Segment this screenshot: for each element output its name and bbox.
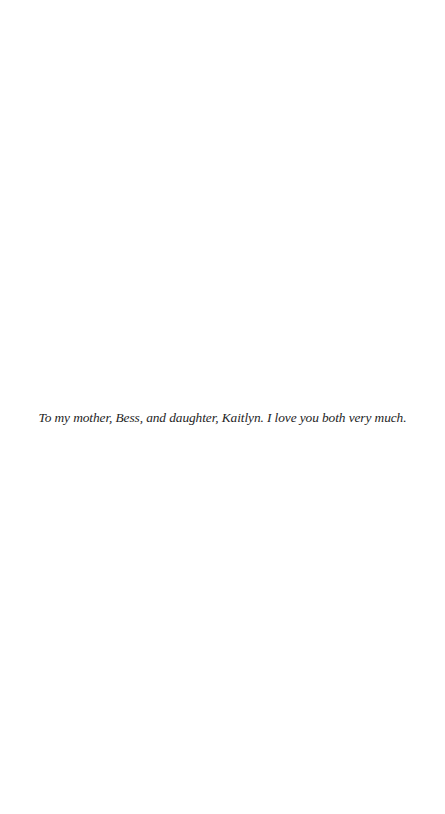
- dedication-text: To my mother, Bess, and daughter, Kaitly…: [0, 409, 445, 427]
- book-page: To my mother, Bess, and daughter, Kaitly…: [0, 0, 445, 814]
